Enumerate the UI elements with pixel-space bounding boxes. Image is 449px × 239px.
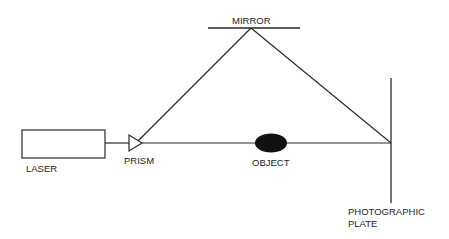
holography-diagram: LASER PRISM MIRROR OBJECT PHOTOGRAPHIC P… — [0, 0, 449, 239]
laser-label: LASER — [26, 163, 57, 174]
beam-reference-down — [251, 28, 391, 143]
prism-icon — [129, 135, 142, 151]
plate-label-line1: PHOTOGRAPHIC — [348, 206, 425, 217]
mirror-label: MIRROR — [232, 15, 271, 26]
plate-label-line2: PLATE — [348, 218, 377, 229]
laser-box — [22, 130, 105, 158]
object-label: OBJECT — [252, 157, 290, 168]
object-shape — [255, 134, 287, 153]
beam-reference-up — [138, 28, 251, 141]
prism-label: PRISM — [124, 155, 154, 166]
